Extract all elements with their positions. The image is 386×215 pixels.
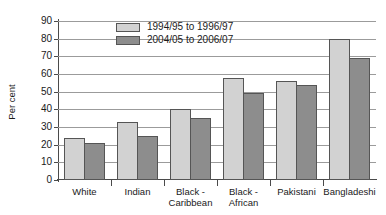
bar bbox=[223, 78, 244, 180]
legend-swatch-icon-series-1 bbox=[116, 23, 140, 32]
y-axis-tick-label: 10 bbox=[41, 157, 52, 167]
y-axis-label: Per cent bbox=[6, 62, 17, 142]
bar bbox=[276, 81, 297, 180]
y-axis-tick-label: 40 bbox=[41, 104, 52, 114]
legend: 1994/95 to 1996/97 2004/05 to 2006/07 bbox=[116, 22, 233, 45]
bar bbox=[349, 58, 370, 180]
bar bbox=[84, 143, 105, 180]
x-axis-label-line: White bbox=[58, 186, 111, 197]
y-axis-tick-label: 80 bbox=[41, 34, 52, 44]
bar-group bbox=[58, 21, 111, 180]
x-axis-label: Pakistani bbox=[270, 186, 323, 208]
bar bbox=[117, 122, 138, 180]
bar-chart: Per cent 9080706050403020100 WhiteIndian… bbox=[0, 0, 386, 215]
y-axis-tick-label: 70 bbox=[41, 51, 52, 61]
bar bbox=[190, 118, 211, 180]
x-axis-label-line: Caribbean bbox=[164, 197, 217, 208]
y-axis-tick-label: 90 bbox=[41, 16, 52, 26]
y-axis-tick-label: 0 bbox=[46, 175, 52, 185]
y-axis-tick-label: 60 bbox=[41, 69, 52, 79]
y-axis-tick bbox=[54, 180, 58, 181]
legend-label-series-1: 1994/95 to 1996/97 bbox=[147, 22, 233, 32]
x-axis-label-line: Indian bbox=[111, 186, 164, 197]
x-axis-label-line: Black - bbox=[217, 186, 270, 197]
bar bbox=[329, 39, 350, 180]
x-axis-label-line: Black - bbox=[164, 186, 217, 197]
bar bbox=[170, 109, 191, 180]
y-axis-tick-label: 30 bbox=[41, 122, 52, 132]
legend-item-series-1: 1994/95 to 1996/97 bbox=[116, 22, 233, 32]
bar bbox=[64, 138, 85, 180]
y-axis-tick-label: 50 bbox=[41, 87, 52, 97]
bar-group bbox=[323, 21, 376, 180]
legend-label-series-2: 2004/05 to 2006/07 bbox=[147, 35, 233, 45]
x-axis-label-line: African bbox=[217, 197, 270, 208]
legend-swatch-icon-series-2 bbox=[116, 36, 140, 45]
bar bbox=[296, 85, 317, 180]
bar bbox=[243, 93, 264, 180]
x-axis-label-line: Pakistani bbox=[270, 186, 323, 197]
x-axis-labels: WhiteIndianBlack -CaribbeanBlack -Africa… bbox=[58, 186, 376, 208]
bar-group bbox=[270, 21, 323, 180]
x-axis-label: White bbox=[58, 186, 111, 208]
x-axis-label: Bangladeshi bbox=[323, 186, 376, 208]
bar bbox=[137, 136, 158, 180]
y-axis-tick-label: 20 bbox=[41, 140, 52, 150]
x-axis-label: Black -Caribbean bbox=[164, 186, 217, 208]
x-axis-label: Black -African bbox=[217, 186, 270, 208]
x-axis-label-line: Bangladeshi bbox=[323, 186, 376, 197]
x-axis-label: Indian bbox=[111, 186, 164, 208]
scan-artifact bbox=[6, 2, 76, 9]
legend-item-series-2: 2004/05 to 2006/07 bbox=[116, 35, 233, 45]
